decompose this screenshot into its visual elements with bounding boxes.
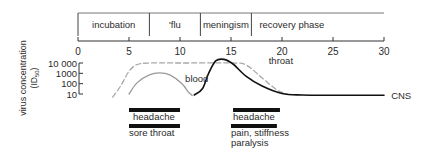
x-tick-label: 25 xyxy=(327,46,339,57)
x-tick-label: 5 xyxy=(126,46,132,57)
y-axis-label-unit-close: ) xyxy=(29,67,39,70)
series-label-cns: CNS xyxy=(391,90,411,101)
phase-band: incubation'flumeningismrecovery phase xyxy=(78,13,384,36)
y-axis-label-main: virus concentration xyxy=(18,40,28,116)
symptom-label: paralysis xyxy=(231,137,269,148)
symptom-bars: headachesore throatheadachepain, stiffne… xyxy=(129,108,289,148)
x-tick-label: 15 xyxy=(225,46,237,57)
phase-label-recoveryphase: recovery phase xyxy=(259,19,324,30)
series-label-throat: throat xyxy=(269,55,294,66)
x-axis: 051015202530 xyxy=(75,37,390,57)
y-tick-label: 10 xyxy=(66,89,77,100)
x-tick-label: 30 xyxy=(378,46,390,57)
series-group xyxy=(113,59,384,97)
series-label-blood: blood xyxy=(185,73,208,84)
y-axis: 10 000100010010 xyxy=(48,58,83,100)
x-tick-label: 0 xyxy=(75,46,81,57)
y-axis-label-unit: (ID50) xyxy=(29,67,40,88)
poliovirus-timeline-chart: incubation'flumeningismrecovery phase 05… xyxy=(0,0,426,164)
phase-label-meningism: meningism xyxy=(203,19,249,30)
x-tick-label: 10 xyxy=(174,46,186,57)
y-axis-label: virus concentration (ID50) xyxy=(18,40,40,116)
symptom-label: headache xyxy=(233,111,275,122)
y-axis-label-unit-open: (ID xyxy=(29,77,39,88)
symptom-label: headache xyxy=(133,111,175,122)
phase-label-flu: 'flu xyxy=(169,19,181,30)
series-line-blood xyxy=(129,73,192,96)
phase-label-incubation: incubation xyxy=(92,19,135,30)
symptom-label: sore throat xyxy=(129,127,175,138)
